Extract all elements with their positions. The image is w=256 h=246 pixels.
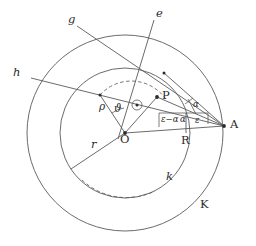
label-inner-circle-k: k — [166, 171, 173, 183]
alpha-wedge-arc-left — [185, 98, 193, 104]
label-center-O: O — [120, 134, 129, 146]
label-angle-alpha-lower: α — [180, 115, 186, 124]
label-angle-epsilon: ε — [195, 116, 200, 125]
label-point-A: A — [230, 119, 238, 131]
label-outer-circle-K: K — [200, 199, 209, 211]
right-angle-dot-marker — [136, 104, 139, 107]
radius-r-line — [71, 133, 125, 169]
point-G-on-circle-dot — [163, 72, 166, 75]
point-rho-end-dot — [99, 94, 102, 97]
label-foot-R: R — [181, 135, 190, 147]
point-P-dot — [155, 95, 159, 99]
label-point-P: P — [162, 90, 170, 102]
label-angle-alpha-upper: α — [193, 100, 199, 109]
label-angle-theta: ϑ — [114, 103, 122, 114]
figure-canvas — [0, 0, 256, 246]
geometry-figure: O P A R k K r ρ ϑ e g h α α ε ε−α — [0, 0, 256, 246]
point-A-dot — [222, 124, 226, 128]
label-ray-g: g — [68, 14, 75, 26]
axis-line-OA — [125, 126, 224, 133]
label-ray-h: h — [13, 67, 20, 79]
dashed-inner-lower-arc — [82, 180, 155, 198]
label-angle-epsilon-minus-alpha: ε−α — [161, 115, 178, 124]
label-radius-rho: ρ — [99, 101, 105, 112]
label-ray-e: e — [156, 8, 163, 20]
label-radius-r: r — [91, 139, 97, 151]
